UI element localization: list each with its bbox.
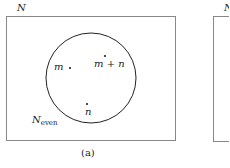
point-label-m: m <box>54 61 63 72</box>
universe-rectangle-b <box>214 17 230 142</box>
caption-a: (a) <box>81 147 95 158</box>
subset-label: Neven <box>31 114 58 127</box>
point-n-dot <box>86 103 88 105</box>
set-label-n-b: N <box>223 2 229 13</box>
panel-b-partial: N <box>214 2 230 142</box>
set-label-n: N <box>16 2 27 13</box>
point-label-n: n <box>85 106 91 117</box>
venn-diagram-figure: N m m + n n Neven (a) N <box>0 0 229 168</box>
point-label-m-plus-n: m + n <box>94 58 125 69</box>
point-m-dot <box>69 67 71 69</box>
point-m-plus-n-dot <box>104 55 106 57</box>
panel-a: N m m + n n Neven (a) <box>7 2 176 158</box>
